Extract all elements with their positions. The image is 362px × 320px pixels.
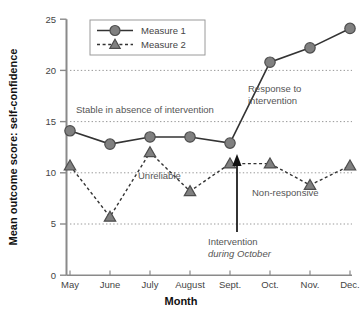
y-tick-label-25: 25 [45, 14, 56, 25]
y-tick-label-0: 0 [51, 270, 56, 281]
y-tick-label-20: 20 [45, 65, 56, 76]
x-tick-label-nov: Nov. [301, 279, 320, 290]
x-tick-label-may: May [61, 279, 79, 290]
measure-2-point [104, 211, 115, 221]
annotation-response-line2: intervention [248, 95, 297, 106]
x-tick-label-august: August [175, 279, 205, 290]
line-chart: 25 20 15 10 5 0 May June July August Sep… [0, 0, 362, 320]
measure-2-markers [64, 147, 355, 221]
x-tick-labels: May June July August Sept. Oct. Nov. Dec… [61, 279, 360, 290]
annotation-nonresponsive: Non-responsive [252, 187, 319, 198]
intervention-arrow [232, 154, 241, 232]
annotation-stable: Stable in absence of intervention [76, 104, 214, 115]
measure-1-point [225, 138, 235, 148]
measure-1-point [145, 132, 155, 142]
measure-1-point [345, 23, 355, 33]
x-axis-title: Month [165, 295, 198, 307]
measure-1-point [105, 139, 115, 149]
chart-container: 25 20 15 10 5 0 May June July August Sep… [0, 0, 362, 320]
intervention-arrow-head [232, 154, 241, 166]
measure-2-point [144, 147, 155, 157]
x-tick-label-oct: Oct. [261, 279, 278, 290]
x-tick-label-dec: Dec. [340, 279, 360, 290]
annotation-intervention-line2: during October [208, 248, 272, 259]
axes [60, 19, 352, 275]
y-tick-label-10: 10 [45, 167, 56, 178]
legend-label-measure-1: Measure 1 [141, 25, 186, 36]
annotation-response-line1: Response to [248, 83, 301, 94]
x-tick-label-july: July [142, 279, 159, 290]
x-tick-label-sept: Sept. [219, 279, 241, 290]
series-measure-2 [64, 147, 355, 221]
legend-marker-measure-1 [110, 26, 120, 36]
annotation-unreliable: Unreliable [138, 170, 181, 181]
measure-1-point [265, 57, 275, 67]
measure-2-point [344, 160, 355, 170]
annotation-intervention-line1: Intervention [208, 236, 258, 247]
y-tick-labels: 25 20 15 10 5 0 [45, 14, 56, 281]
measure-1-point [185, 132, 195, 142]
legend: Measure 1 Measure 2 [90, 20, 205, 55]
y-axis-title: Mean outcome score: self-confidence [7, 49, 19, 246]
x-tick-label-june: June [100, 279, 121, 290]
y-tick-label-5: 5 [51, 218, 56, 229]
measure-1-point [305, 43, 315, 53]
measure-1-point [65, 126, 75, 136]
y-tick-label-15: 15 [45, 116, 56, 127]
legend-label-measure-2: Measure 2 [141, 39, 186, 50]
